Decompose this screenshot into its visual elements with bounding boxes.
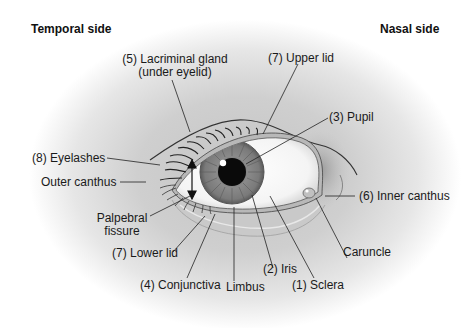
- label-upper-lid: (7) Upper lid: [268, 52, 334, 65]
- label-iris: (2) Iris: [263, 263, 297, 276]
- label-caruncle: Caruncle: [343, 246, 391, 259]
- pupil-highlight: [220, 160, 226, 166]
- label-inner-canthus: (6) Inner canthus: [359, 190, 450, 203]
- caruncle-shape: [303, 188, 315, 198]
- label-outer-canthus: Outer canthus: [41, 176, 116, 189]
- label-lower-lid: (7) Lower lid: [112, 247, 178, 260]
- nasal-side-label: Nasal side: [380, 23, 439, 36]
- label-palpebral-fissure-line2: fissure: [92, 225, 152, 238]
- label-conjunctiva: (4) Conjunctiva: [140, 279, 221, 292]
- temporal-side-label: Temporal side: [31, 23, 111, 36]
- eye-anatomy-diagram: Temporal side Nasal side (5) Lacriminal …: [0, 0, 475, 328]
- label-palpebral-fissure: Palpebral fissure: [92, 212, 152, 238]
- label-sclera: (1) Sclera: [292, 279, 344, 292]
- label-limbus: Limbus: [226, 281, 265, 294]
- label-lacrimal-gland-line2: (under eyelid): [122, 66, 228, 79]
- label-pupil: (3) Pupil: [329, 111, 374, 124]
- label-lacrimal-gland: (5) Lacriminal gland (under eyelid): [122, 53, 228, 79]
- label-eyelashes: (8) Eyelashes: [32, 152, 105, 165]
